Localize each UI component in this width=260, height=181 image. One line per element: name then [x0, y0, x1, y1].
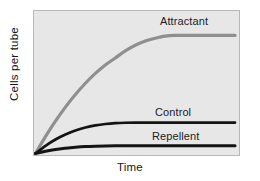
- plot-area: Attractant Control Repellent: [33, 10, 240, 156]
- x-axis-title: Time: [0, 161, 260, 173]
- series-line-repellent: [35, 146, 235, 154]
- series-label-repellent: Repellent: [152, 131, 199, 142]
- series-label-attractant: Attractant: [160, 16, 208, 27]
- curve-canvas: [34, 11, 239, 155]
- chart-figure: Attractant Control Repellent Cells per t…: [0, 0, 260, 181]
- series-label-control: Control: [155, 107, 191, 118]
- y-axis-title: Cells per tube: [8, 14, 20, 114]
